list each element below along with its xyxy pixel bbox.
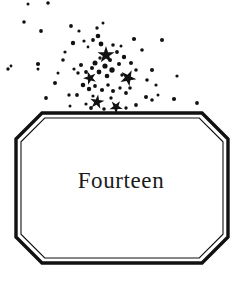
chapter-number-title: Fourteen bbox=[0, 167, 242, 195]
decorative-octagon-frame bbox=[0, 0, 242, 283]
chapter-title-page: Fourteen bbox=[0, 0, 242, 283]
